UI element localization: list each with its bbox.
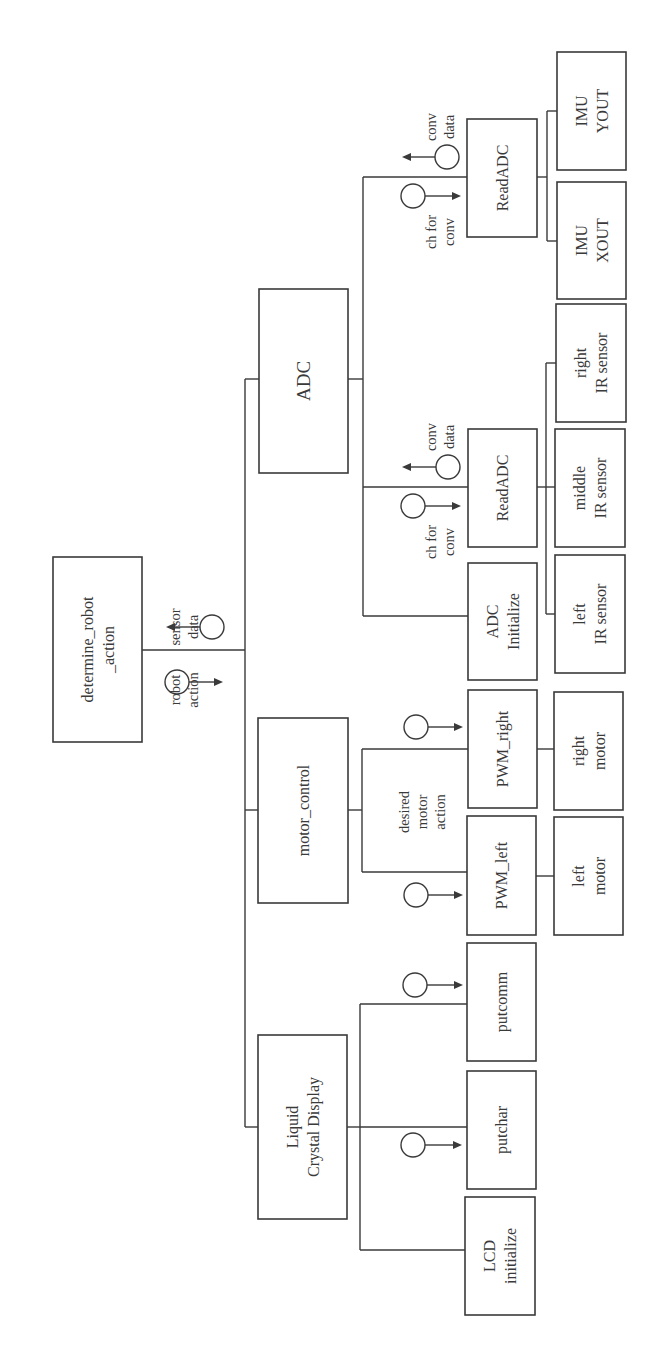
couple-label-line: data xyxy=(441,424,457,449)
data-couples: sensordatarobotactionconvdatach forconvc… xyxy=(165,112,463,1157)
data-couple-to-putchar xyxy=(401,1133,462,1157)
module-label-line: IR sensor xyxy=(592,457,609,519)
module-lcd-initialize: LCDinitialize xyxy=(465,1197,535,1315)
arrow-right-icon xyxy=(452,502,461,510)
couple-label-line: sensor xyxy=(167,608,183,645)
module-motor-control: motor_control xyxy=(258,718,348,903)
module-label: ReadADC xyxy=(494,145,511,212)
module-label: ReadADC xyxy=(494,455,511,522)
data-couple-conv-data-imu: convdata xyxy=(402,112,459,169)
annotations: desiredmotoraction xyxy=(396,790,448,833)
module-adc-initialize: ADCInitialize xyxy=(468,563,537,680)
module-label-line: LCD xyxy=(481,1240,498,1272)
couple-circle-icon xyxy=(404,883,428,907)
module-label-line: initialize xyxy=(502,1228,519,1284)
data-couple-to-pwm-left xyxy=(404,883,463,907)
module-readadc-ir: ReadADC xyxy=(468,429,537,547)
arrow-left-icon xyxy=(402,463,411,471)
module-label-line: determine_robot xyxy=(79,596,96,702)
data-couple-ch-for-conv-ir: ch forconv xyxy=(401,494,461,559)
couple-circle-icon xyxy=(436,455,460,479)
module-label-line: IR sensor xyxy=(593,332,610,394)
structure-chart: determine_robot_actionADCmotor_controlLi… xyxy=(0,0,656,1345)
module-label-line: right xyxy=(572,347,590,378)
module-left-ir-sensor: leftIR sensor xyxy=(555,555,625,673)
module-label-line: PWM_right xyxy=(494,710,512,787)
module-label-line: XOUT xyxy=(594,218,611,263)
module-label-line: motor xyxy=(591,731,608,770)
couple-circle-icon xyxy=(404,715,428,739)
module-root: determine_robot_action xyxy=(53,557,142,742)
couple-circle-icon xyxy=(401,494,425,518)
module-label-line: ADC xyxy=(484,605,501,639)
arrow-right-icon xyxy=(214,678,223,686)
module-label-line: IR sensor xyxy=(592,583,609,645)
module-label-line: motor_control xyxy=(295,764,312,856)
couple-circle-icon xyxy=(435,145,459,169)
annotation-desired-motor-action-line: motor xyxy=(414,795,430,830)
module-label-line: middle xyxy=(571,466,588,510)
data-couple-robot-action: robotaction xyxy=(165,670,223,708)
couple-circle-icon xyxy=(200,615,224,639)
couple-label-line: conv xyxy=(423,112,439,141)
couple-label: convdata xyxy=(423,422,457,451)
couple-label-line: conv xyxy=(423,422,439,451)
module-label-line: left xyxy=(571,603,588,625)
data-couple-to-pwm-right xyxy=(404,715,463,739)
annotation-desired-motor-action-line: action xyxy=(432,794,448,830)
arrow-right-icon xyxy=(453,1141,462,1149)
module-label: putcomm xyxy=(493,971,511,1032)
couple-label: convdata xyxy=(423,112,457,141)
couple-label-line: conv xyxy=(441,217,457,246)
annotation-desired-motor-action: desiredmotoraction xyxy=(396,790,448,833)
couple-label: ch forconv xyxy=(423,215,457,249)
module-label-line: Liquid xyxy=(284,1106,302,1149)
module-label-line: putcomm xyxy=(493,971,511,1032)
module-imu-yout: IMUYOUT xyxy=(557,52,626,170)
module-pwm-right: PWM_right xyxy=(468,690,537,808)
module-adc: ADC xyxy=(259,289,348,473)
arrow-right-icon xyxy=(454,981,463,989)
couple-label-line: action xyxy=(185,672,201,708)
data-couple-ch-for-conv-imu: ch forconv xyxy=(401,184,461,249)
module-label-line: motor xyxy=(591,856,608,895)
data-couple-to-putcomm xyxy=(403,973,463,997)
module-left-motor: leftmotor xyxy=(554,817,623,935)
module-label-line: putchar xyxy=(493,1105,511,1154)
module-lcd: LiquidCrystal Display xyxy=(258,1035,347,1219)
modules: determine_robot_actionADCmotor_controlLi… xyxy=(53,52,626,1315)
module-putcomm: putcomm xyxy=(467,943,536,1061)
module-pwm-left: PWM_left xyxy=(467,816,536,935)
module-right-ir-sensor: rightIR sensor xyxy=(556,304,626,422)
couple-label-line: data xyxy=(185,614,201,639)
module-label-line: Crystal Display xyxy=(305,1077,323,1177)
couple-label-line: conv xyxy=(441,527,457,556)
module-label: PWM_right xyxy=(494,710,512,787)
couple-circle-icon xyxy=(401,1133,425,1157)
module-readadc-imu: ReadADC xyxy=(467,119,537,237)
module-label-line: right xyxy=(570,735,588,766)
arrow-left-icon xyxy=(402,153,411,161)
couple-label-line: robot xyxy=(167,675,183,706)
data-couple-sensor-data: sensordata xyxy=(166,608,224,645)
couple-circle-icon xyxy=(403,973,427,997)
arrow-right-icon xyxy=(454,723,463,731)
arrow-right-icon xyxy=(452,192,461,200)
couple-label-line: ch for xyxy=(423,525,439,559)
module-label: motor_control xyxy=(295,764,312,856)
module-label-line: IMU xyxy=(573,225,590,257)
module-label: ADC xyxy=(293,361,314,401)
module-label-line: IMU xyxy=(573,95,590,127)
module-label-line: _action xyxy=(100,626,117,674)
module-label-line: Initialize xyxy=(505,593,522,650)
module-right-motor: rightmotor xyxy=(554,692,623,810)
module-label: PWM_left xyxy=(493,841,510,909)
module-label-line: ReadADC xyxy=(494,145,511,212)
module-putchar: putchar xyxy=(467,1071,536,1189)
module-imu-xout: IMUXOUT xyxy=(557,182,626,299)
data-couple-conv-data-ir: convdata xyxy=(402,422,460,479)
module-middle-ir-sensor: middleIR sensor xyxy=(555,429,625,547)
module-label-line: YOUT xyxy=(594,89,611,134)
module-label-line: ADC xyxy=(293,361,314,401)
couple-label: ch forconv xyxy=(423,525,457,559)
